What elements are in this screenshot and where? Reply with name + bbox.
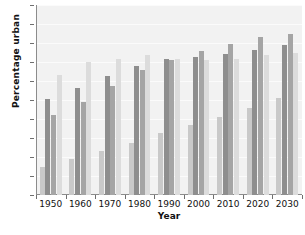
y-tick-mark <box>30 176 34 177</box>
x-axis-label: Year <box>36 211 302 221</box>
bar <box>40 167 45 196</box>
y-axis-label: Percentage urban <box>11 1 21 121</box>
bar <box>288 34 293 196</box>
bar <box>105 76 110 195</box>
bar <box>164 59 169 195</box>
bar <box>69 159 74 195</box>
bar <box>252 50 257 195</box>
x-tick-mark <box>302 195 303 199</box>
bar <box>99 151 104 195</box>
bar <box>282 45 287 195</box>
y-tick-mark <box>30 100 34 101</box>
bar <box>258 37 263 195</box>
bar <box>276 98 281 195</box>
y-tick-mark <box>30 138 34 139</box>
bar <box>134 66 139 195</box>
bar <box>169 60 174 195</box>
bar <box>193 57 198 195</box>
plot-area <box>36 5 302 195</box>
legend-strip-clipped <box>150 229 300 235</box>
bar <box>86 62 91 195</box>
bar <box>234 59 239 195</box>
y-tick-mark <box>30 24 34 25</box>
bar <box>158 133 163 195</box>
bar <box>264 55 269 195</box>
bar <box>140 70 145 195</box>
bar <box>223 54 228 195</box>
bar <box>188 125 193 195</box>
y-tick-mark <box>30 81 34 82</box>
bar <box>57 75 62 195</box>
bar <box>110 86 115 195</box>
y-tick-mark <box>30 43 34 44</box>
bar <box>199 51 204 195</box>
bar <box>129 143 134 195</box>
bar <box>75 88 80 195</box>
bar <box>217 117 222 195</box>
bar <box>116 59 121 195</box>
y-tick-mark <box>30 119 34 120</box>
y-tick-mark <box>30 5 34 6</box>
bar <box>228 44 233 195</box>
bar <box>51 115 56 195</box>
bar <box>247 108 252 195</box>
bar <box>145 55 150 195</box>
bar-series-layer <box>36 5 302 195</box>
bar <box>81 102 86 195</box>
y-tick-mark <box>30 195 34 196</box>
bar <box>293 53 298 196</box>
y-tick-mark <box>30 157 34 158</box>
chart-figure: Percentage urban 0102030405060708090100 … <box>0 0 305 235</box>
y-tick-mark <box>30 62 34 63</box>
bar <box>45 99 50 195</box>
x-tick-label: 2030 <box>270 199 304 210</box>
bar <box>204 60 209 195</box>
bar <box>175 59 180 195</box>
